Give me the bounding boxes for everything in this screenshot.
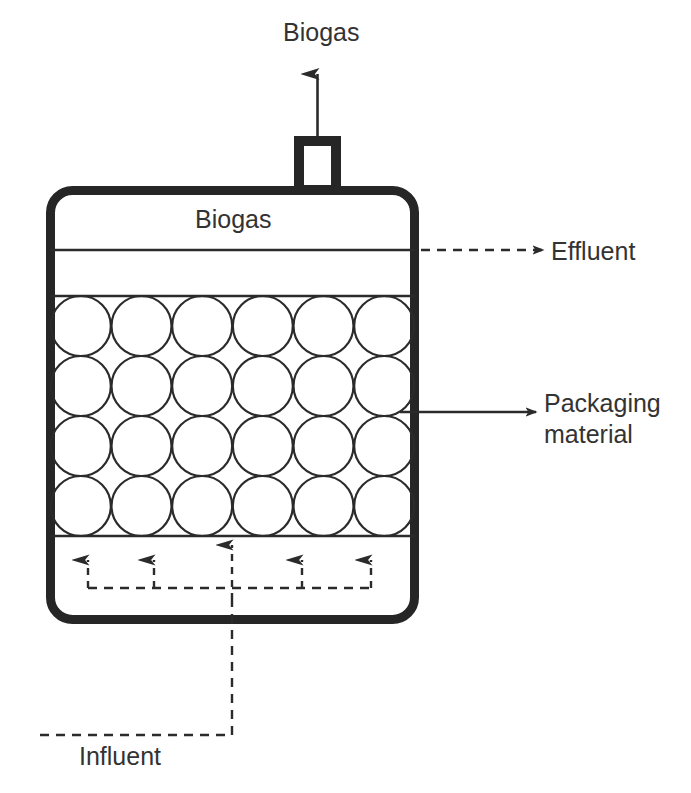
effluent-label: Effluent — [551, 237, 635, 267]
packaging-material-label-line2: material — [544, 419, 661, 450]
biogas-headspace-label: Biogas — [195, 205, 271, 235]
biogas-outlet-label: Biogas — [283, 18, 359, 48]
gas-outlet-nozzle — [299, 141, 336, 190]
packaging-material-label-line1: Packaging — [544, 389, 661, 417]
diagram-canvas: Biogas Biogas Effluent Packagingmaterial… — [0, 0, 691, 793]
packaging-material-label: Packagingmaterial — [544, 388, 661, 449]
influent-label: Influent — [79, 742, 161, 772]
